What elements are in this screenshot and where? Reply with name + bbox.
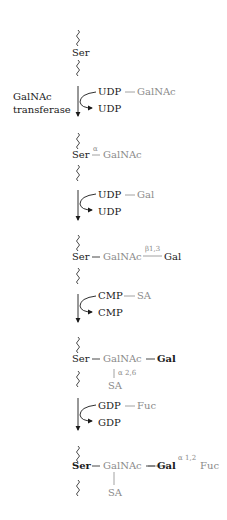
linkage-label: α xyxy=(93,145,98,153)
sugar: Gal xyxy=(164,251,181,263)
enzyme-label-line2: transferase xyxy=(13,104,71,116)
linkage-label: α 1,2 xyxy=(178,454,196,462)
sugar: Fuc xyxy=(200,460,219,472)
product: UDP xyxy=(98,103,121,115)
sugar: GalNAc xyxy=(137,86,176,98)
sugar: GalNAc xyxy=(103,353,142,365)
sugar: Gal xyxy=(137,189,154,201)
product: UDP xyxy=(98,206,121,218)
enzyme-label-line1: GalNAc xyxy=(13,91,52,103)
sugar: GalNAc xyxy=(103,460,142,472)
branch-sugar: SA xyxy=(108,380,122,392)
sugar: GalNAc xyxy=(103,251,142,263)
sugar: SA xyxy=(137,290,151,302)
ser-residue: Ser xyxy=(72,251,90,263)
sugar: GalNAc xyxy=(103,149,142,161)
ser-residue: Ser xyxy=(72,460,91,472)
sugar: Gal xyxy=(157,353,176,365)
donor: UDP xyxy=(98,86,121,98)
ser-residue: Ser xyxy=(72,353,90,365)
donor: UDP xyxy=(98,189,121,201)
product: GDP xyxy=(98,417,121,429)
donor: CMP xyxy=(98,290,123,302)
ser-residue: Ser xyxy=(72,149,90,161)
product: CMP xyxy=(98,307,123,319)
sugar: Fuc xyxy=(137,400,156,412)
ser-residue: Ser xyxy=(72,47,90,59)
donor: GDP xyxy=(98,400,121,412)
branch-sugar: SA xyxy=(108,487,122,499)
linkage-label: α 2,6 xyxy=(118,369,136,377)
sugar: Gal xyxy=(157,460,176,472)
linkage-label: β1,3 xyxy=(145,245,160,253)
